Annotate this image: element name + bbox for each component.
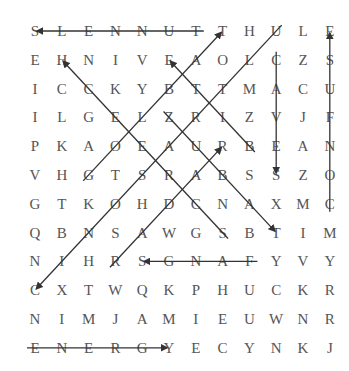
grid-cell[interactable]: R — [318, 307, 342, 331]
grid-cell[interactable]: B — [211, 163, 235, 187]
grid-cell[interactable]: S — [318, 48, 342, 72]
grid-cell[interactable]: W — [103, 278, 127, 302]
grid-cell[interactable]: L — [130, 105, 154, 129]
grid-cell[interactable]: B — [50, 221, 74, 245]
grid-cell[interactable]: I — [50, 249, 74, 273]
grid-cell[interactable]: N — [23, 307, 47, 331]
grid-cell[interactable]: R — [103, 336, 127, 360]
grid-cell[interactable]: X — [264, 192, 288, 216]
grid-cell[interactable]: A — [130, 307, 154, 331]
grid-cell[interactable]: N — [291, 307, 315, 331]
grid-cell[interactable]: I — [23, 105, 47, 129]
grid-cell[interactable]: Y — [318, 249, 342, 273]
grid-cell[interactable]: I — [184, 307, 208, 331]
grid-cell[interactable]: B — [237, 134, 261, 158]
grid-cell[interactable]: N — [50, 336, 74, 360]
grid-cell[interactable]: W — [157, 221, 181, 245]
grid-cell[interactable]: F — [237, 249, 261, 273]
grid-cell[interactable]: A — [237, 192, 261, 216]
grid-cell[interactable]: O — [318, 163, 342, 187]
grid-cell[interactable]: B — [157, 77, 181, 101]
grid-cell[interactable]: S — [23, 19, 47, 43]
grid-cell[interactable]: H — [211, 278, 235, 302]
grid-cell[interactable]: R — [157, 163, 181, 187]
grid-cell[interactable]: N — [77, 48, 101, 72]
grid-cell[interactable]: N — [103, 19, 127, 43]
grid-cell[interactable]: R — [103, 249, 127, 273]
grid-cell[interactable]: C — [184, 192, 208, 216]
grid-cell[interactable]: G — [184, 221, 208, 245]
grid-cell[interactable]: H — [130, 192, 154, 216]
grid-cell[interactable]: Z — [291, 163, 315, 187]
grid-cell[interactable]: A — [264, 77, 288, 101]
grid-cell[interactable]: O — [103, 192, 127, 216]
grid-cell[interactable]: U — [157, 19, 181, 43]
grid-cell[interactable]: H — [50, 163, 74, 187]
grid-cell[interactable]: N — [77, 221, 101, 245]
grid-cell[interactable]: N — [318, 134, 342, 158]
grid-cell[interactable]: I — [211, 105, 235, 129]
grid-cell[interactable]: J — [103, 307, 127, 331]
grid-cell[interactable]: S — [130, 163, 154, 187]
grid-cell[interactable]: H — [77, 249, 101, 273]
grid-cell[interactable]: E — [103, 105, 127, 129]
grid-cell[interactable]: E — [77, 19, 101, 43]
grid-cell[interactable]: U — [264, 19, 288, 43]
grid-cell[interactable]: E — [130, 134, 154, 158]
grid-cell[interactable]: L — [237, 48, 261, 72]
grid-cell[interactable]: V — [264, 105, 288, 129]
grid-cell[interactable]: W — [264, 307, 288, 331]
grid-cell[interactable]: U — [184, 134, 208, 158]
grid-cell[interactable]: T — [264, 221, 288, 245]
grid-cell[interactable]: N — [264, 336, 288, 360]
grid-cell[interactable]: K — [77, 192, 101, 216]
grid-cell[interactable]: R — [184, 105, 208, 129]
grid-cell[interactable]: T — [77, 278, 101, 302]
grid-cell[interactable]: S — [264, 163, 288, 187]
grid-cell[interactable]: E — [23, 336, 47, 360]
grid-cell[interactable]: G — [157, 249, 181, 273]
grid-cell[interactable]: C — [318, 192, 342, 216]
grid-cell[interactable]: E — [77, 336, 101, 360]
grid-cell[interactable]: E — [318, 19, 342, 43]
grid-cell[interactable]: C — [264, 48, 288, 72]
grid-cell[interactable]: V — [23, 163, 47, 187]
grid-cell[interactable]: P — [184, 278, 208, 302]
grid-cell[interactable]: T — [184, 19, 208, 43]
grid-cell[interactable]: G — [77, 105, 101, 129]
grid-cell[interactable]: Q — [23, 221, 47, 245]
grid-cell[interactable]: S — [237, 163, 261, 187]
grid-cell[interactable]: U — [237, 278, 261, 302]
grid-cell[interactable]: T — [184, 77, 208, 101]
grid-cell[interactable]: Z — [157, 105, 181, 129]
grid-cell[interactable]: A — [184, 163, 208, 187]
grid-cell[interactable]: K — [291, 336, 315, 360]
grid-cell[interactable]: T — [211, 77, 235, 101]
grid-cell[interactable]: M — [237, 77, 261, 101]
grid-cell[interactable]: Y — [130, 77, 154, 101]
grid-cell[interactable]: C — [264, 278, 288, 302]
grid-cell[interactable]: B — [237, 221, 261, 245]
grid-cell[interactable]: Y — [237, 336, 261, 360]
grid-cell[interactable]: L — [291, 19, 315, 43]
grid-cell[interactable]: C — [50, 77, 74, 101]
grid-cell[interactable]: O — [211, 48, 235, 72]
grid-cell[interactable]: A — [157, 134, 181, 158]
grid-cell[interactable]: K — [50, 134, 74, 158]
grid-cell[interactable]: E — [184, 336, 208, 360]
grid-cell[interactable]: R — [318, 278, 342, 302]
grid-cell[interactable]: G — [77, 163, 101, 187]
grid-cell[interactable]: K — [291, 278, 315, 302]
grid-cell[interactable]: N — [211, 192, 235, 216]
grid-cell[interactable]: V — [291, 249, 315, 273]
grid-cell[interactable]: N — [23, 249, 47, 273]
grid-cell[interactable]: L — [50, 105, 74, 129]
grid-cell[interactable]: E — [157, 48, 181, 72]
grid-cell[interactable]: Z — [291, 48, 315, 72]
grid-cell[interactable]: C — [23, 278, 47, 302]
grid-cell[interactable]: M — [318, 221, 342, 245]
grid-cell[interactable]: C — [291, 77, 315, 101]
grid-cell[interactable]: D — [157, 192, 181, 216]
grid-cell[interactable]: N — [184, 249, 208, 273]
grid-cell[interactable]: Y — [157, 336, 181, 360]
